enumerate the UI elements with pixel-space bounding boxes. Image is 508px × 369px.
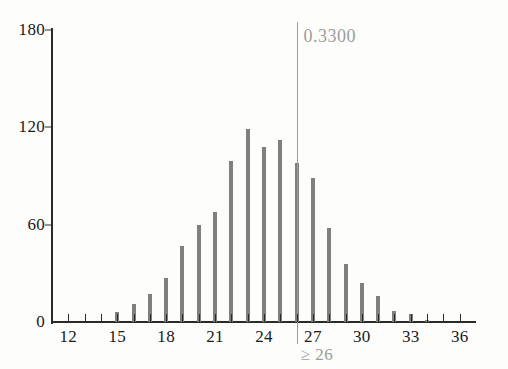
- y-axis-tick-mark: [45, 127, 51, 128]
- y-axis-tick-mark: [45, 30, 51, 31]
- x-axis-tick-mark: [248, 314, 249, 322]
- x-axis-tick-mark: [297, 314, 298, 322]
- bar: [262, 147, 266, 322]
- histogram-chart: 060120180 0.3300 ≥ 26 121518212427303336: [0, 0, 508, 369]
- x-axis-tick-mark: [199, 314, 200, 322]
- x-axis-tick-mark: [427, 314, 428, 322]
- bar: [327, 228, 331, 322]
- bar: [246, 129, 250, 322]
- y-axis-tick-mark: [45, 224, 51, 225]
- x-axis-tick-mark: [68, 314, 69, 322]
- x-axis-tick-mark: [313, 314, 314, 322]
- x-axis-tick-mark: [329, 314, 330, 322]
- x-axis-tick-mark: [378, 314, 379, 322]
- x-axis-tick-mark: [182, 314, 183, 322]
- bar: [197, 225, 201, 322]
- x-axis-tick-mark: [394, 314, 395, 322]
- y-axis-tick-label: 120: [19, 117, 45, 137]
- x-axis-tick-label: 30: [353, 327, 371, 347]
- x-axis-tick-label: 33: [402, 327, 420, 347]
- bar: [180, 246, 184, 322]
- x-axis-tick-label: 27: [304, 327, 322, 347]
- x-axis-tick-label: 36: [451, 327, 469, 347]
- x-axis-tick-mark: [460, 314, 461, 322]
- x-axis-tick-label: 18: [157, 327, 175, 347]
- bars-layer: [52, 30, 476, 322]
- y-axis: 060120180: [0, 0, 45, 369]
- x-axis-tick-mark: [134, 314, 135, 322]
- cutoff-probability-label: 0.3300: [304, 26, 357, 47]
- x-axis-tick-mark: [85, 314, 86, 322]
- x-axis-tick-mark: [362, 314, 363, 322]
- x-axis-tick-mark: [101, 314, 102, 322]
- x-axis-tick-mark: [117, 314, 118, 322]
- bar: [229, 161, 233, 322]
- x-axis-tick-label: 15: [108, 327, 126, 347]
- y-axis-tick-label: 0: [36, 312, 45, 332]
- x-axis-tick-mark: [443, 314, 444, 322]
- bar: [278, 140, 282, 322]
- bar: [213, 212, 217, 322]
- x-axis-tick-mark: [346, 314, 347, 322]
- y-axis-tick-label: 60: [27, 215, 45, 235]
- x-axis-tick-mark: [231, 314, 232, 322]
- cutoff-condition-label: ≥ 26: [301, 345, 334, 365]
- x-axis-tick-mark: [280, 314, 281, 322]
- x-axis-tick-mark: [215, 314, 216, 322]
- x-axis-tick-mark: [150, 314, 151, 322]
- y-axis-tick-label: 180: [19, 20, 45, 40]
- x-axis-tick-mark: [264, 314, 265, 322]
- x-axis-tick-label: 12: [59, 327, 77, 347]
- x-axis-tick-mark: [411, 314, 412, 322]
- x-axis-tick-label: 21: [206, 327, 224, 347]
- cutoff-line: [297, 22, 298, 344]
- bar: [311, 178, 315, 322]
- x-axis-tick-label: 24: [255, 327, 273, 347]
- x-axis-tick-mark: [166, 314, 167, 322]
